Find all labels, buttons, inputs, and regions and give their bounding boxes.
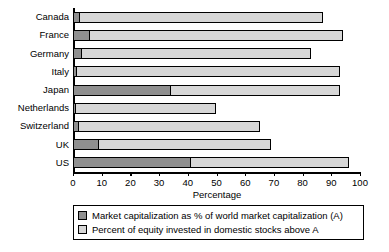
bar-segment-domestic-equity [98,139,271,150]
x-tick-40 [188,172,189,176]
bar-segment-market-cap [73,30,90,41]
bar-segment-domestic-equity [169,85,340,96]
x-tick-label-60: 60 [230,177,260,188]
bar-row-france [73,30,360,41]
plot-area [73,8,360,172]
x-tick-30 [159,172,160,176]
y-axis-label-japan: Japan [0,85,69,95]
y-axis-category-labels: CanadaFranceGermanyItalyJapanNetherlands… [0,8,69,172]
bar-segment-market-cap [73,121,79,132]
y-axis-label-germany: Germany [0,49,69,59]
legend-swatch-series-b [78,225,87,234]
bar-row-japan [73,85,360,96]
x-tick-50 [217,172,218,176]
x-tick-0 [73,172,74,176]
x-tick-label-70: 70 [259,177,289,188]
bar-segment-market-cap [73,48,82,59]
y-axis-label-switzerland: Switzerland [0,121,69,131]
bar-row-netherlands [73,103,360,114]
bar-segment-market-cap [73,139,99,150]
x-tick-label-10: 10 [87,177,117,188]
bar-segment-domestic-equity [189,157,348,168]
bar-row-italy [73,66,360,77]
legend-label-series-a: Market capitalization as % of world mark… [92,210,343,221]
x-tick-label-0: 0 [58,177,88,188]
x-tick-label-80: 80 [288,177,318,188]
bar-row-canada [73,12,360,23]
y-axis-label-canada: Canada [0,12,69,22]
bar-segment-market-cap [73,12,80,23]
bar-row-switzerland [73,121,360,132]
bar-segment-market-cap [73,157,191,168]
legend-item-market-cap: Market capitalization as % of world mark… [78,209,359,222]
x-tick-label-20: 20 [115,177,145,188]
legend-swatch-series-a [78,211,87,220]
y-axis-label-uk: UK [0,140,69,150]
x-tick-10 [102,172,103,176]
x-tick-70 [274,172,275,176]
bar-row-uk [73,139,360,150]
x-tick-80 [303,172,304,176]
chart-legend: Market capitalization as % of world mark… [73,205,364,240]
x-tick-60 [245,172,246,176]
bar-segment-domestic-equity [80,48,311,59]
bar-segment-market-cap [73,66,77,77]
x-tick-label-100: 100 [345,177,375,188]
y-axis-label-netherlands: Netherlands [0,103,69,113]
x-axis-title: Percentage [73,189,361,200]
bar-segment-domestic-equity [89,30,343,41]
chart-container: CanadaFranceGermanyItalyJapanNetherlands… [0,0,389,252]
legend-item-domestic-equity: Percent of equity invested in domestic s… [78,223,359,236]
bar-segment-domestic-equity [76,66,340,77]
x-tick-20 [130,172,131,176]
bar-row-germany [73,48,360,59]
x-tick-label-90: 90 [316,177,346,188]
bar-row-us [73,157,360,168]
y-axis-label-italy: Italy [0,67,69,77]
bar-segment-market-cap [73,103,76,114]
x-tick-100 [360,172,361,176]
bar-segment-domestic-equity [79,12,323,23]
x-tick-label-50: 50 [202,177,232,188]
bar-segment-domestic-equity [75,103,217,114]
x-tick-90 [331,172,332,176]
x-tick-label-40: 40 [173,177,203,188]
x-tick-label-30: 30 [144,177,174,188]
y-axis-label-us: US [0,158,69,168]
y-axis-label-france: France [0,30,69,40]
legend-label-series-b: Percent of equity invested in domestic s… [92,224,319,235]
bar-segment-market-cap [73,85,171,96]
bar-segment-domestic-equity [78,121,260,132]
